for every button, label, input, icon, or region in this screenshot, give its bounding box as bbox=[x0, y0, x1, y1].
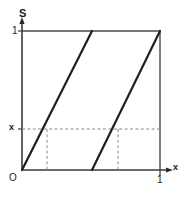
map-branch-1 bbox=[22, 31, 92, 170]
map-branch-2 bbox=[92, 31, 160, 170]
plot-canvas bbox=[0, 0, 188, 197]
x-tick-label-right: 1 bbox=[157, 175, 163, 185]
y-tick-label-top: 1 bbox=[12, 26, 18, 36]
x-axis-title: x bbox=[173, 163, 178, 172]
y-tick-label-mid: x bbox=[9, 123, 14, 132]
origin-label: O bbox=[9, 173, 17, 183]
x-axis-arrow-icon bbox=[166, 167, 173, 172]
y-axis-title: S bbox=[19, 8, 26, 19]
sawtooth-map-figure: S x 1 x O 1 bbox=[0, 0, 188, 197]
